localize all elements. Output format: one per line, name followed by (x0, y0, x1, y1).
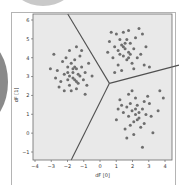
data-point (150, 115, 153, 118)
y-axis-label: dF [1] (13, 88, 19, 103)
data-point (68, 75, 71, 78)
data-point (80, 49, 83, 52)
data-point (122, 54, 125, 57)
x-tick-label: −4 (31, 163, 38, 169)
x-axis-label: dF [0] (95, 172, 110, 178)
data-point (141, 33, 144, 36)
data-point (131, 89, 134, 92)
data-point (84, 71, 87, 74)
data-point (115, 33, 118, 36)
data-point (127, 115, 130, 118)
plot-area (33, 14, 172, 160)
data-point (129, 42, 132, 45)
y-tick-label: 3 (26, 73, 29, 79)
x-tick-label: 1 (115, 163, 118, 169)
data-point (129, 124, 132, 127)
data-point (134, 107, 137, 110)
data-point (134, 36, 137, 39)
data-point (129, 53, 132, 56)
data-point (131, 109, 134, 112)
data-point (132, 133, 135, 136)
data-point (68, 84, 71, 87)
x-tick-label: 2 (131, 163, 134, 169)
x-tick-label: −1 (80, 163, 87, 169)
data-point (63, 73, 66, 76)
data-point (71, 67, 74, 70)
data-point (118, 98, 121, 101)
data-point (148, 102, 151, 105)
data-point (58, 86, 61, 89)
y-tick-label: 6 (26, 17, 29, 23)
data-point (108, 40, 111, 43)
data-point (117, 64, 120, 67)
data-point (148, 65, 151, 68)
data-point (134, 113, 137, 116)
data-point (124, 42, 127, 45)
data-point (63, 89, 66, 92)
data-point (157, 109, 160, 112)
data-point (75, 87, 78, 90)
data-point (82, 78, 85, 81)
data-point (80, 65, 83, 68)
data-point (125, 137, 128, 140)
data-point (132, 47, 135, 50)
y-axis-ticks: −10123456 (22, 17, 33, 155)
data-point (132, 120, 135, 123)
data-point (117, 49, 120, 52)
data-point (132, 67, 135, 70)
data-point (122, 45, 125, 48)
data-point (66, 71, 69, 74)
data-point (70, 62, 73, 65)
data-point (141, 146, 144, 149)
data-point (124, 127, 127, 130)
data-point (127, 29, 130, 32)
data-point (54, 76, 57, 79)
data-point (136, 56, 139, 59)
data-point (158, 89, 161, 92)
data-point (117, 107, 120, 110)
y-tick-label: 4 (26, 55, 29, 61)
data-point (118, 38, 121, 41)
data-point (113, 71, 116, 74)
data-point (134, 96, 137, 99)
x-tick-label: 3 (147, 163, 150, 169)
data-point (87, 62, 90, 65)
data-point (118, 53, 121, 56)
data-point (115, 118, 118, 121)
data-point (70, 89, 73, 92)
scatter-chart: −4−3−2−101234 −10123456 dF [0] dF [1] (0, 0, 188, 185)
data-point (127, 56, 130, 59)
data-point (137, 27, 140, 30)
data-point (52, 53, 55, 56)
y-tick-label: 0 (26, 130, 29, 136)
data-point (110, 31, 113, 34)
data-point (120, 69, 123, 72)
data-point (144, 113, 147, 116)
data-point (66, 78, 69, 81)
data-point (77, 73, 80, 76)
data-point (139, 126, 142, 129)
x-tick-label: 0 (98, 163, 101, 169)
data-point (85, 84, 88, 87)
data-point (143, 122, 146, 125)
data-point (84, 93, 87, 96)
x-tick-label: −3 (48, 163, 55, 169)
data-point (151, 131, 154, 134)
data-point (139, 53, 142, 56)
data-point (125, 38, 128, 41)
data-point (78, 54, 81, 57)
data-point (71, 76, 74, 79)
data-point (129, 102, 132, 105)
data-point (122, 111, 125, 114)
data-point (162, 96, 165, 99)
data-point (131, 62, 134, 65)
data-point (61, 60, 64, 63)
data-point (122, 31, 125, 34)
data-point (141, 107, 144, 110)
x-tick-label: 4 (163, 163, 166, 169)
data-point (75, 80, 78, 83)
data-point (125, 106, 128, 109)
data-point (113, 45, 116, 48)
data-point (68, 49, 71, 52)
data-point (136, 118, 139, 121)
